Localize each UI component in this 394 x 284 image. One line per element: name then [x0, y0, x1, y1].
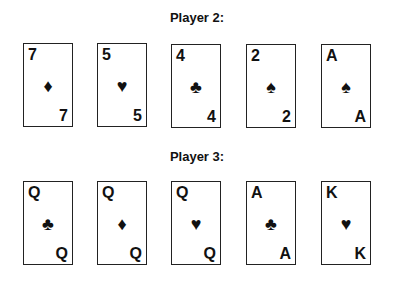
card-a-spades[interactable]: A ♠ A	[321, 44, 371, 128]
spade-icon: ♠	[322, 78, 370, 96]
card-q-clubs[interactable]: Q ♣ Q	[23, 181, 73, 265]
card-rank: A	[354, 108, 366, 126]
club-icon: ♣	[172, 78, 220, 96]
card-rank: A	[251, 184, 263, 202]
player-3-title: Player 3:	[0, 149, 394, 164]
card-rank: A	[279, 245, 291, 263]
card-4-clubs[interactable]: 4 ♣ 4	[171, 44, 221, 128]
card-rank: K	[326, 184, 338, 202]
heart-icon: ♥	[98, 77, 146, 95]
club-icon: ♣	[247, 215, 295, 233]
club-icon: ♣	[24, 215, 72, 233]
card-rank: 5	[102, 46, 111, 64]
card-7-diamonds[interactable]: 7 ♦ 7	[23, 43, 73, 127]
card-2-spades[interactable]: 2 ♠ 2	[246, 44, 296, 128]
card-rank: 2	[251, 47, 260, 65]
card-rank: 5	[133, 107, 142, 125]
card-rank: Q	[102, 184, 114, 202]
card-5-hearts[interactable]: 5 ♥ 5	[97, 43, 147, 127]
card-a-clubs[interactable]: A ♣ A	[246, 181, 296, 265]
diamond-icon: ♦	[98, 215, 146, 233]
heart-icon: ♥	[322, 215, 370, 233]
card-rank: Q	[130, 245, 142, 263]
card-rank: A	[326, 47, 338, 65]
diamond-icon: ♦	[24, 77, 72, 95]
heart-icon: ♥	[172, 215, 220, 233]
card-q-hearts[interactable]: Q ♥ Q	[171, 181, 221, 265]
spade-icon: ♠	[247, 78, 295, 96]
card-rank: 4	[207, 108, 216, 126]
card-rank: Q	[204, 245, 216, 263]
card-rank: 7	[28, 46, 37, 64]
card-q-diamonds[interactable]: Q ♦ Q	[97, 181, 147, 265]
card-rank: Q	[176, 184, 188, 202]
card-rank: Q	[56, 245, 68, 263]
card-rank: K	[354, 245, 366, 263]
card-k-hearts[interactable]: K ♥ K	[321, 181, 371, 265]
card-rank: 7	[59, 107, 68, 125]
card-rank: Q	[28, 184, 40, 202]
player-2-title: Player 2:	[0, 10, 394, 25]
card-rank: 4	[176, 47, 185, 65]
card-rank: 2	[282, 108, 291, 126]
